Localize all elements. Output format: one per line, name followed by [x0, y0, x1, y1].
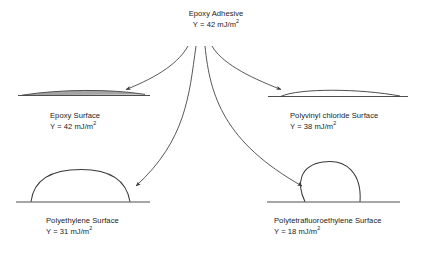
adhesive-name: Epoxy Adhesive — [141, 8, 291, 19]
droplet-group-epoxy — [18, 90, 150, 95]
droplet-group-pvc — [268, 90, 408, 96]
arrow-to-pvc — [212, 46, 281, 90]
droplet-shape-ptfe — [301, 161, 361, 201]
droplet-shape-polyethylene — [31, 170, 130, 202]
polyethylene-energy-exponent: 2 — [89, 225, 92, 231]
ptfe-surface-name: Polytetrafluoroethylene Surface — [274, 215, 432, 226]
epoxy-surface-name: Epoxy Surface — [50, 110, 154, 121]
droplet-shape-epoxy-fill — [22, 90, 145, 95]
label-ptfe-surface: Polytetrafluoroethylene Surface Υ = 18 m… — [262, 215, 432, 237]
arrow-to-epoxy — [126, 46, 188, 90]
pvc-surface-name: Polyvinyl chloride Surface — [290, 110, 432, 121]
epoxy-energy-text: Υ = 42 mJ/m — [50, 122, 93, 131]
adhesive-energy-text: Υ = 42 mJ/m — [193, 20, 236, 29]
polyethylene-energy-text: Υ = 31 mJ/m — [46, 227, 89, 236]
adhesive-energy-exponent: 2 — [236, 18, 239, 24]
ptfe-energy-exponent: 2 — [317, 225, 320, 231]
epoxy-surface-energy: Υ = 42 mJ/m2 — [50, 121, 154, 132]
label-epoxy-adhesive: Epoxy Adhesive Υ = 42 mJ/m2 — [141, 8, 291, 30]
pvc-energy-text: Υ = 38 mJ/m — [290, 122, 333, 131]
ptfe-energy-text: Υ = 18 mJ/m — [274, 227, 317, 236]
pvc-energy-exponent: 2 — [333, 120, 336, 126]
droplet-group-ptfe — [267, 161, 400, 202]
polyethylene-surface-name: Polyethylene Surface — [46, 215, 164, 226]
adhesive-surface-energy: Υ = 42 mJ/m2 — [141, 19, 291, 30]
droplet-shape-pvc — [281, 90, 400, 96]
pvc-surface-energy: Υ = 38 mJ/m2 — [290, 121, 432, 132]
ptfe-surface-energy: Υ = 18 mJ/m2 — [274, 226, 432, 237]
polyethylene-surface-energy: Υ = 31 mJ/m2 — [46, 226, 164, 237]
epoxy-energy-exponent: 2 — [93, 120, 96, 126]
droplet-group-polyethylene — [16, 170, 150, 203]
label-epoxy-surface: Epoxy Surface Υ = 42 mJ/m2 — [14, 110, 154, 132]
label-polyethylene-surface: Polyethylene Surface Υ = 31 mJ/m2 — [14, 215, 164, 237]
wetting-diagram: Epoxy Adhesive Υ = 42 mJ/m2 Epoxy Surfac… — [0, 0, 433, 254]
label-pvc-surface: Polyvinyl chloride Surface Υ = 38 mJ/m2 — [274, 110, 432, 132]
